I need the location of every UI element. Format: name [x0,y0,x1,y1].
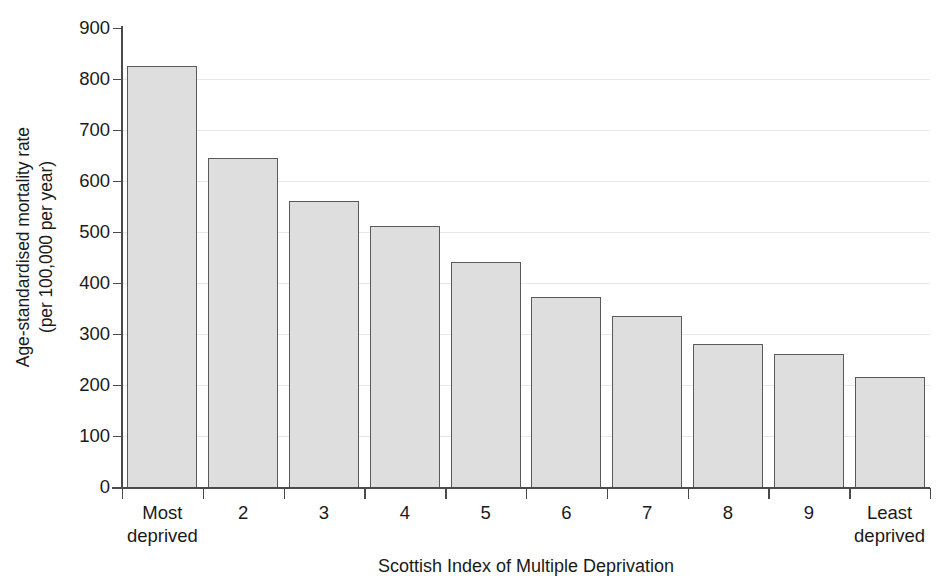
y-axis-line [121,26,123,489]
x-axis-tick-label-line: 2 [203,502,284,525]
x-axis-tick-mark [284,488,285,499]
y-axis-tick-label: 800 [62,70,110,89]
x-axis-line [112,487,930,489]
bar-slot [122,28,203,487]
y-axis-tick-label: 0 [62,478,110,497]
y-axis-tick-labels: 0100200300400500600700800900 [62,0,110,570]
bar-slot [768,28,849,487]
bar-series [122,28,930,487]
x-axis-tick-label: 3 [284,502,365,547]
x-axis-tick-label: 2 [203,502,284,547]
x-axis-tick-mark [445,488,446,499]
y-axis-tick-mark [113,487,122,488]
y-axis-tick-label: 900 [62,19,110,38]
y-axis-tick-label: 300 [62,325,110,344]
x-axis-tick-label: 9 [768,502,849,547]
y-axis-tick-mark [113,334,122,335]
x-axis-tick-label-line: Most [122,502,203,525]
x-axis-tick-mark [364,488,365,499]
x-axis-tick-label: 8 [688,502,769,547]
y-axis-title-line-2: (per 100,000 per year) [35,127,58,367]
bar-slot [607,28,688,487]
y-axis-tick-label: 600 [62,172,110,191]
bar [289,201,359,487]
bar [693,344,763,487]
x-axis-tick-mark [122,488,123,499]
x-axis-tick-mark [768,488,769,499]
y-axis-title: Age-standardised mortality rate (per 100… [0,0,70,495]
y-axis-tick-mark [113,283,122,284]
x-axis-tick-label: Mostdeprived [122,502,203,547]
x-axis-tick-mark [526,488,527,499]
y-axis-tick-label: 200 [62,376,110,395]
bar-slot [849,28,930,487]
x-axis-tick-mark [203,488,204,499]
x-axis-tick-label-line: 9 [768,502,849,525]
x-axis-tick-label: 6 [526,502,607,547]
bar [127,66,197,487]
x-axis-tick-label: 7 [607,502,688,547]
x-axis-tick-labels: Mostdeprived23456789Leastdeprived [122,502,930,547]
y-axis-tick-mark [113,79,122,80]
bar [531,297,601,487]
x-axis-tick-mark [849,488,850,499]
y-axis-tick-mark [113,181,122,182]
y-axis-title-line-1: Age-standardised mortality rate [13,127,33,367]
x-axis-tick-label-line: Least [849,502,930,525]
x-axis-tick-label-line: 8 [688,502,769,525]
y-axis-tick-label: 500 [62,223,110,242]
x-axis-tick-label: Leastdeprived [849,502,930,547]
y-axis-tick-mark [113,385,122,386]
y-axis-tick-label: 700 [62,121,110,140]
plot-area [122,28,930,487]
x-axis-caption: Scottish Index of Multiple Deprivation [122,556,930,578]
x-axis-tick-label: 4 [364,502,445,547]
x-axis-tick-label-line: 3 [284,502,365,525]
x-axis-tick-label-line: 5 [445,502,526,525]
x-axis-tick-label-line: 7 [607,502,688,525]
bar-slot [526,28,607,487]
bar [208,158,278,487]
x-axis-tick-label-line: 6 [526,502,607,525]
y-axis-tick-label: 400 [62,274,110,293]
y-axis-tick-mark [113,130,122,131]
x-axis-tick-label-line: 4 [364,502,445,525]
bar [612,316,682,487]
bar-slot [284,28,365,487]
y-axis-tick-mark [113,436,122,437]
y-axis-tick-label: 100 [62,427,110,446]
bar [774,354,844,487]
x-axis-tick-label-line: deprived [849,525,930,548]
x-axis-tick-mark [607,488,608,499]
bar-slot [364,28,445,487]
x-axis-tick-mark [930,488,931,499]
x-axis-tick-label: 5 [445,502,526,547]
bar-slot [203,28,284,487]
bar-slot [688,28,769,487]
x-axis-tick-mark [688,488,689,499]
bar [451,262,521,487]
bar [370,226,440,487]
bar [855,377,925,487]
x-axis-tick-label-line: deprived [122,525,203,548]
y-axis-tick-mark [113,28,122,29]
y-axis-tick-mark [113,232,122,233]
bar-slot [445,28,526,487]
